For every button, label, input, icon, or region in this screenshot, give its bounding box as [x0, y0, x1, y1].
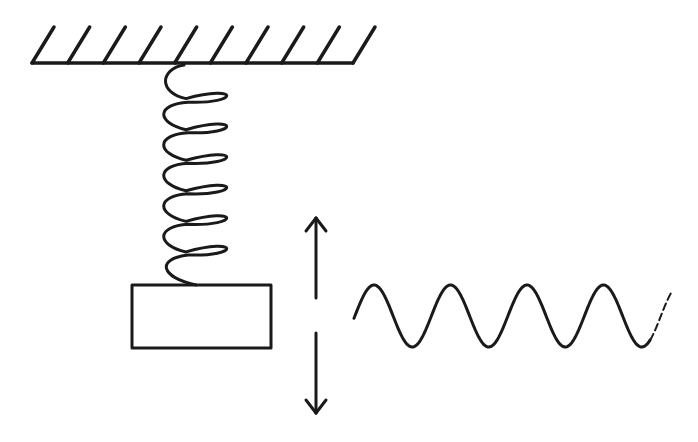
- ceiling-hatch: [210, 27, 232, 63]
- ceiling-hatch: [103, 27, 125, 63]
- spring-mass-diagram: [0, 0, 698, 442]
- ceiling-hatch: [32, 27, 54, 63]
- ceiling-hatch: [282, 27, 304, 63]
- ceiling-hatch: [353, 27, 375, 63]
- mass-block: [132, 285, 271, 348]
- ceiling-hatch: [246, 27, 268, 63]
- up-arrow-icon: [306, 218, 326, 298]
- ceiling-hatch: [175, 27, 197, 63]
- sine-wave: [354, 285, 650, 347]
- ceiling-hatch: [317, 27, 339, 63]
- down-arrow-icon: [306, 333, 326, 413]
- sine-wave-continuation-dashed: [650, 291, 672, 340]
- ceiling-hatch: [139, 27, 161, 63]
- ceiling-support: [32, 27, 375, 63]
- coil-spring: [164, 65, 227, 285]
- ceiling-hatch: [68, 27, 90, 63]
